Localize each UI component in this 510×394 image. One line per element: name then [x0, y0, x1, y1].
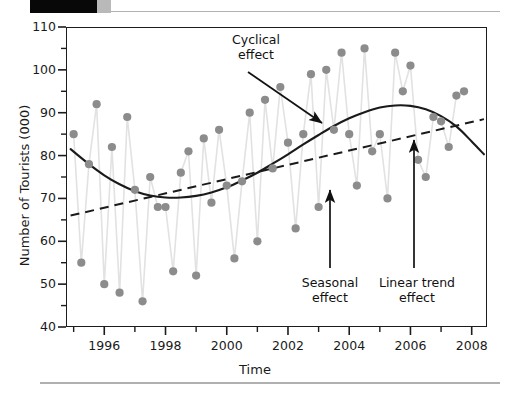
data-point [452, 91, 460, 99]
data-point [169, 267, 177, 275]
data-point [315, 203, 323, 211]
x-tick-label: 1998 [143, 338, 189, 353]
data-point [261, 96, 269, 104]
data-point [93, 100, 101, 108]
data-point [108, 143, 116, 151]
data-point [422, 173, 430, 181]
x-tick-label: 2006 [387, 338, 433, 353]
footer-rule [40, 382, 500, 384]
data-point [138, 297, 146, 305]
data-point [161, 203, 169, 211]
x-tick-label: 2002 [265, 338, 311, 353]
annotation-seasonal-effect: Seasonal effect [289, 275, 371, 305]
data-point [376, 130, 384, 138]
data-point [322, 66, 330, 74]
x-tick-label: 1996 [81, 338, 127, 353]
data-point [391, 49, 399, 57]
data-point [123, 113, 131, 121]
data-point [460, 87, 468, 95]
data-point [330, 126, 338, 134]
data-point [414, 156, 422, 164]
data-point [85, 160, 93, 168]
data-point [284, 139, 292, 147]
data-point [70, 130, 78, 138]
data-point [207, 199, 215, 207]
data-point [406, 61, 414, 69]
data-point [200, 134, 208, 142]
data-point [192, 271, 200, 279]
x-tick-label: 2008 [449, 338, 495, 353]
data-point-markers [70, 44, 469, 305]
annotation-linear-trend-effect: Linear trend effect [371, 275, 463, 305]
data-point [154, 203, 162, 211]
y-tick-label: 110 [18, 19, 56, 34]
data-point [360, 44, 368, 52]
x-tick-label: 2004 [326, 338, 372, 353]
data-point [100, 280, 108, 288]
data-point [131, 186, 139, 194]
data-point [445, 143, 453, 151]
y-axis-title: Number of Tourists (000) [17, 86, 32, 286]
data-point [399, 87, 407, 95]
data-point [184, 147, 192, 155]
annotation-cyclical-effect: Cyclical effect [214, 32, 298, 62]
data-point [253, 237, 261, 245]
data-point [246, 109, 254, 117]
data-point [177, 169, 185, 177]
data-point [269, 164, 277, 172]
data-point [146, 173, 154, 181]
x-tick-label: 2000 [204, 338, 250, 353]
x-axis-title: Time [0, 362, 510, 377]
data-point [215, 126, 223, 134]
data-point [77, 259, 85, 267]
data-point [437, 117, 445, 125]
figure-root: 110100908070605040 199619982000200220042… [0, 0, 510, 394]
data-point [429, 113, 437, 121]
data-point [230, 254, 238, 262]
data-point [307, 70, 315, 78]
data-point [368, 147, 376, 155]
data-point [345, 130, 353, 138]
data-point [115, 289, 123, 297]
data-point [383, 194, 391, 202]
y-tick-label: 100 [18, 62, 56, 77]
y-tick-label: 40 [18, 319, 56, 334]
data-point [337, 49, 345, 57]
data-point [299, 130, 307, 138]
data-point [238, 177, 246, 185]
data-point [276, 83, 284, 91]
data-point [292, 224, 300, 232]
data-point [223, 181, 231, 189]
data-point [353, 181, 361, 189]
